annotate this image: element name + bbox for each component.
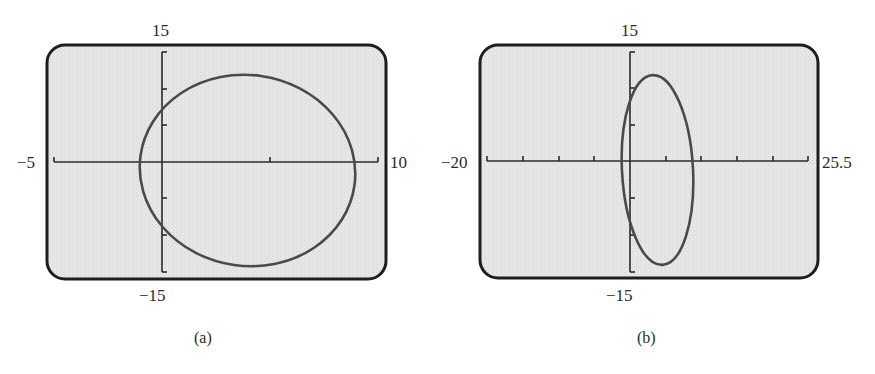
graph-b-xmax-label: 25.5 <box>822 154 852 171</box>
graphs-canvas <box>0 0 875 374</box>
graph-b <box>480 45 818 278</box>
graph-a-xmin-label: −5 <box>17 154 35 171</box>
graph-a-xmax-label: 10 <box>390 154 407 171</box>
graph-b-ymax-label: 15 <box>621 22 638 39</box>
graph-a <box>47 45 386 280</box>
graph-b-caption: (b) <box>637 330 656 346</box>
graph-b-xmin-label: −20 <box>441 154 468 171</box>
graph-b-ymin-label: −15 <box>606 287 633 304</box>
graph-a-ymin-label: −15 <box>139 287 166 304</box>
figure: 15 −15 −5 10 (a) 15 −15 −20 25.5 (b) <box>0 0 875 374</box>
graph-a-ymax-label: 15 <box>152 22 169 39</box>
graph-a-caption: (a) <box>194 330 212 346</box>
